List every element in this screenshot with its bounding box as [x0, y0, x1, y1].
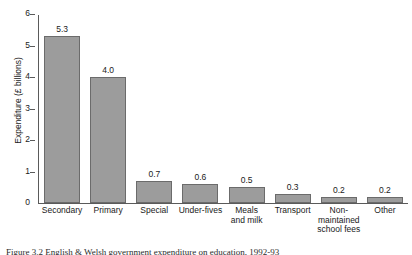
bar-value-label: 4.0 [102, 66, 114, 75]
y-axis-tick-mark [30, 172, 35, 173]
bar-slot: 4.0 [90, 14, 126, 203]
figure-caption: Figure 3.2 English & Welsh government ex… [6, 247, 406, 255]
bar-value-label: 0.5 [241, 176, 253, 185]
bar-value-label: 0.6 [195, 173, 207, 182]
y-axis-tick-label: 0 [25, 198, 30, 207]
bar-slot: 0.3 [275, 14, 311, 203]
bar [136, 181, 172, 203]
bar-value-label: 0.3 [287, 183, 299, 192]
bar-value-label: 0.7 [148, 170, 160, 179]
y-axis-tick-mark [30, 46, 35, 47]
figure-bar-chart: Expenditure (£ billions) 6543210 5.34.00… [0, 0, 412, 255]
bar [229, 187, 265, 203]
x-axis-line [38, 203, 408, 204]
category-label-line: and milk [218, 216, 276, 226]
bar [275, 194, 311, 203]
bar-series: 5.34.00.70.60.50.30.20.2 [39, 14, 408, 203]
bar [44, 36, 80, 203]
bar-slot: 0.2 [367, 14, 403, 203]
bar-slot: 0.5 [229, 14, 265, 203]
bar-value-label: 0.2 [379, 186, 391, 195]
bar-slot: 5.3 [44, 14, 80, 203]
y-axis-title: Expenditure (£ billions) [14, 31, 23, 171]
category-label-line: school fees [310, 225, 368, 235]
x-axis-category-labels: SecondaryPrimarySpecialUnder-fivesMealsa… [39, 206, 408, 250]
bar-value-label: 5.3 [56, 25, 68, 34]
y-axis-tick-mark [30, 140, 35, 141]
category-label-line: Other [356, 206, 412, 216]
y-axis-tick-mark [30, 109, 35, 110]
bar-value-label: 0.2 [333, 186, 345, 195]
y-axis-tick-mark [30, 14, 35, 15]
y-axis-tick-mark [30, 77, 35, 78]
bar [182, 184, 218, 203]
bar [321, 197, 357, 203]
bar-slot: 0.6 [182, 14, 218, 203]
bar-slot: 0.7 [136, 14, 172, 203]
x-axis-category-label: Other [356, 206, 412, 216]
bar [90, 77, 126, 203]
bar-slot: 0.2 [321, 14, 357, 203]
bar [367, 197, 403, 203]
